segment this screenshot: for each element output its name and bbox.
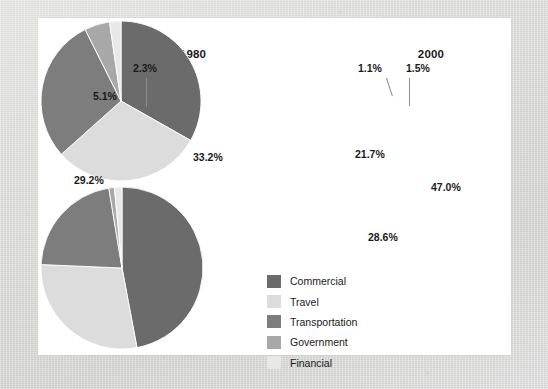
- pie-slice-commercial: [122, 187, 203, 348]
- pie-2000-svg: [38, 184, 206, 352]
- callout-line-2000-financial: [409, 78, 410, 106]
- callout-line-1980-financial: [146, 78, 147, 107]
- pie-chart-1980: [38, 18, 204, 184]
- legend-label-transportation: Transportation: [290, 316, 357, 328]
- legend-item-government: Government: [267, 332, 357, 352]
- chart-content-panel: 1980 33.2% 30.2% 29.2% 5.1% 2.3% 2000 47…: [38, 18, 511, 355]
- legend-label-commercial: Commercial: [290, 275, 346, 287]
- legend-swatch-travel: [267, 295, 281, 308]
- legend-label-travel: Travel: [290, 296, 319, 308]
- slice-label-2000-government: 1.1%: [358, 62, 382, 74]
- legend-swatch-financial: [267, 356, 281, 369]
- page-root: 1980 33.2% 30.2% 29.2% 5.1% 2.3% 2000 47…: [0, 0, 548, 389]
- slice-label-2000-commercial: 47.0%: [431, 181, 461, 193]
- legend-swatch-government: [267, 336, 281, 349]
- legend-item-travel: Travel: [267, 291, 357, 311]
- chart-title-2000: 2000: [391, 48, 471, 60]
- legend-item-transportation: Transportation: [267, 312, 357, 332]
- slice-label-2000-travel: 28.6%: [368, 231, 398, 243]
- chart-legend: Commercial Travel Transportation Governm…: [267, 271, 357, 373]
- legend-item-financial: Financial: [267, 353, 357, 373]
- legend-item-commercial: Commercial: [267, 271, 357, 291]
- pie-slice-transportation: [41, 188, 122, 268]
- pie-chart-2000: [38, 184, 206, 352]
- slice-label-1980-financial: 2.3%: [133, 62, 157, 74]
- legend-swatch-transportation: [267, 315, 281, 328]
- pie-slice-travel: [41, 265, 137, 349]
- legend-label-government: Government: [290, 336, 348, 348]
- legend-label-financial: Financial: [290, 357, 332, 369]
- slice-label-2000-financial: 1.5%: [406, 62, 430, 74]
- callout-line-2000-government: [386, 78, 393, 96]
- slice-label-2000-transportation: 21.7%: [355, 148, 385, 160]
- legend-swatch-commercial: [267, 275, 281, 288]
- slice-label-1980-commercial: 33.2%: [193, 151, 223, 163]
- slice-label-1980-government: 5.1%: [93, 90, 117, 102]
- pie-1980-svg: [38, 18, 204, 184]
